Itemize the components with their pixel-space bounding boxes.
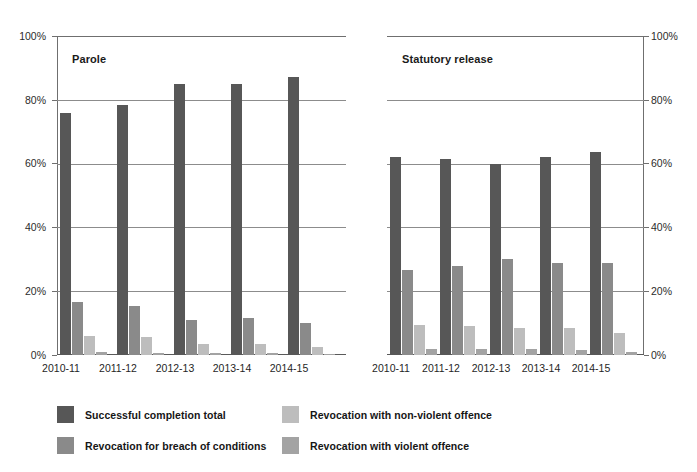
y-tick-label-right-80: 80% (651, 95, 672, 106)
bar-successful-completion-total (390, 157, 401, 355)
bar-revocation-non-violent (414, 325, 425, 355)
bar-successful-completion-total (117, 105, 128, 355)
bar-revocation-non-violent (84, 336, 95, 355)
bar-revocation-non-violent (564, 328, 575, 355)
bar-revocation-breach (186, 320, 197, 355)
bar-successful-completion-total (440, 159, 451, 355)
x-tick-label: 2010-11 (31, 362, 91, 374)
legend-swatch-icon (57, 406, 74, 423)
legend-item-revocation-with-non-violent-offence: Revocation with non-violent offence (282, 406, 492, 423)
bar-revocation-non-violent (141, 337, 152, 355)
legend-label: Revocation with violent offence (310, 440, 469, 452)
x-tick-label: 2014-15 (561, 362, 621, 374)
x-tick-label: 2011-12 (88, 362, 148, 374)
x-tick-label: 2012-13 (145, 362, 205, 374)
bar-revocation-non-violent (198, 344, 209, 355)
legend-item-revocation-with-violent-offence: Revocation with violent offence (282, 437, 469, 454)
bar-revocation-breach (502, 259, 513, 355)
panel-top-line-statutory (387, 36, 644, 37)
panel-title-statutory-release: Statutory release (402, 53, 493, 65)
bar-revocation-breach (300, 323, 311, 355)
bar-revocation-violent (96, 352, 107, 355)
panel-parole: Parole (57, 36, 346, 355)
bar-successful-completion-total (590, 152, 601, 355)
x-tick-label: 2013-14 (202, 362, 262, 374)
y-tick-label-right-0: 0% (651, 350, 666, 361)
legend-swatch-icon (282, 437, 299, 454)
bar-revocation-non-violent (464, 326, 475, 355)
bar-revocation-violent (324, 354, 335, 355)
y-tick-label-right-100: 100% (651, 31, 678, 42)
y-tick-label-left-40: 40% (25, 222, 46, 233)
gridline-parole-80 (57, 100, 346, 101)
bar-revocation-violent (267, 353, 278, 355)
panel-axis-line-parole (57, 36, 58, 355)
bar-revocation-violent (153, 353, 164, 355)
y-tick-mark-right-80 (644, 100, 649, 101)
y-tick-label-left-60: 60% (25, 158, 46, 169)
bar-successful-completion-total (60, 113, 71, 355)
panel-statutory-release: Statutory release (387, 36, 644, 355)
bar-revocation-violent (210, 353, 221, 355)
panel-axis-line-statutory (643, 36, 644, 355)
bar-revocation-non-violent (514, 328, 525, 355)
y-tick-label-left-80: 80% (25, 95, 46, 106)
y-tick-label-right-40: 40% (651, 222, 672, 233)
y-tick-label-left-20: 20% (25, 286, 46, 297)
bar-revocation-violent (476, 349, 487, 355)
gridline-parole-60 (57, 164, 346, 165)
bar-revocation-breach (402, 270, 413, 355)
y-tick-label-left-0: 0% (31, 350, 46, 361)
bar-revocation-breach (243, 318, 254, 355)
chart-panels: 100% 80% 60% 40% 20% 0% 100% 80% 60% 40%… (0, 0, 697, 392)
bar-revocation-violent (426, 349, 437, 355)
bar-revocation-non-violent (255, 344, 266, 355)
y-tick-label-left-100: 100% (19, 31, 46, 42)
y-tick-mark-left-0 (52, 355, 57, 356)
bar-successful-completion-total (288, 77, 299, 355)
bar-revocation-non-violent (312, 347, 323, 355)
y-tick-mark-right-20 (644, 291, 649, 292)
bar-revocation-breach (72, 302, 83, 355)
panel-top-line-parole (57, 36, 346, 37)
gridline-statutory-40 (387, 227, 644, 228)
bar-revocation-violent (576, 350, 587, 355)
bar-revocation-breach (552, 263, 563, 356)
x-tick-label: 2014-15 (259, 362, 319, 374)
bar-revocation-non-violent (614, 333, 625, 355)
gridline-statutory-80 (387, 100, 644, 101)
gridline-parole-20 (57, 291, 346, 292)
legend-swatch-icon (282, 406, 299, 423)
bar-revocation-violent (526, 349, 537, 355)
bar-successful-completion-total (231, 84, 242, 355)
y-tick-mark-right-100 (644, 36, 649, 37)
bar-revocation-breach (452, 266, 463, 355)
bar-revocation-breach (129, 306, 140, 355)
y-tick-mark-right-0 (644, 355, 649, 356)
chart-figure: 100% 80% 60% 40% 20% 0% 100% 80% 60% 40%… (0, 0, 697, 472)
chart-legend: Successful completion total Revocation f… (57, 406, 657, 462)
gridline-statutory-60 (387, 164, 644, 165)
bar-revocation-violent (626, 352, 637, 355)
bar-successful-completion-total (490, 164, 501, 355)
legend-item-revocation-for-breach-of-conditions: Revocation for breach of conditions (57, 437, 266, 454)
y-tick-label-right-20: 20% (651, 286, 672, 297)
gridline-parole-40 (57, 227, 346, 228)
legend-swatch-icon (57, 437, 74, 454)
bar-revocation-breach (602, 263, 613, 356)
legend-label: Successful completion total (85, 409, 226, 421)
panel-title-parole: Parole (72, 53, 106, 65)
bar-successful-completion-total (174, 84, 185, 355)
legend-item-successful-completion-total: Successful completion total (57, 406, 226, 423)
legend-label: Revocation for breach of conditions (85, 440, 266, 452)
y-tick-label-right-60: 60% (651, 158, 672, 169)
y-tick-mark-right-60 (644, 163, 649, 164)
y-tick-mark-right-40 (644, 227, 649, 228)
legend-label: Revocation with non-violent offence (310, 409, 492, 421)
bar-successful-completion-total (540, 157, 551, 355)
